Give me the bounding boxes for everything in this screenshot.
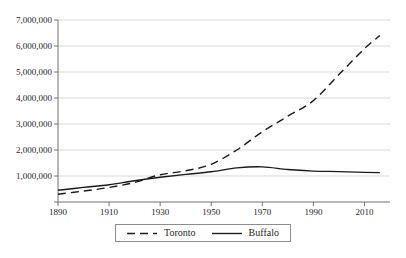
legend-item-buffalo: Buffalo xyxy=(212,228,279,238)
buffalo-line xyxy=(58,167,380,190)
y-tick-label-5000000: 5,000,000 xyxy=(16,67,53,77)
x-tick-label-1910: 1910 xyxy=(100,207,119,217)
population-line-chart-figure: 1,000,0002,000,0003,000,0004,000,0005,00… xyxy=(0,0,406,258)
x-tick-label-1930: 1930 xyxy=(151,207,170,217)
chart-legend: Toronto Buffalo xyxy=(115,224,291,242)
chart-plot-area: 1,000,0002,000,0003,000,0004,000,0005,00… xyxy=(0,0,406,222)
y-tick-label-1000000: 1,000,000 xyxy=(16,171,53,181)
buffalo-solid-line-key xyxy=(212,229,242,238)
x-tick-label-1950: 1950 xyxy=(202,207,221,217)
x-tick-label-2010: 2010 xyxy=(355,207,374,217)
y-tick-label-7000000: 7,000,000 xyxy=(16,15,53,25)
x-tick-label-1890: 1890 xyxy=(49,207,68,217)
x-tick-label-1990: 1990 xyxy=(304,207,323,217)
x-tick-label-1970: 1970 xyxy=(253,207,272,217)
y-tick-label-3000000: 3,000,000 xyxy=(16,119,53,129)
y-tick-label-4000000: 4,000,000 xyxy=(16,93,53,103)
y-tick-label-6000000: 6,000,000 xyxy=(16,41,53,51)
legend-item-toronto: Toronto xyxy=(127,228,196,238)
toronto-dashed-line-key xyxy=(127,229,157,238)
legend-label-buffalo: Buffalo xyxy=(249,228,279,238)
y-tick-label-2000000: 2,000,000 xyxy=(16,145,53,155)
legend-label-toronto: Toronto xyxy=(164,228,196,238)
